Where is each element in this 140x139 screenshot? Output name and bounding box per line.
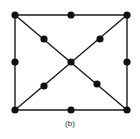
figure-caption: (b): [0, 119, 140, 128]
graph-node: [123, 106, 130, 113]
graph-node: [93, 80, 100, 87]
graph-node: [11, 58, 18, 65]
graph-node: [123, 58, 130, 65]
graph-node: [67, 106, 74, 113]
graph-node: [67, 11, 74, 18]
graph-node: [11, 11, 18, 18]
graph-node: [40, 82, 47, 89]
graph-node: [67, 58, 74, 65]
graph-node: [123, 11, 130, 18]
graph-node: [40, 35, 47, 42]
graph-node: [11, 106, 18, 113]
graph-node: [96, 35, 103, 42]
